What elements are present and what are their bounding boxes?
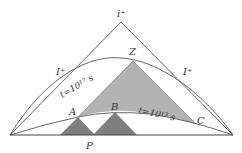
label-i-plus: i⁺ [117, 8, 125, 19]
label-z: Z [128, 46, 137, 57]
label-a: A [68, 106, 76, 117]
label-p: P [85, 140, 93, 151]
label-scri-right: I⁺ [182, 66, 192, 77]
label-c: C [197, 115, 205, 126]
past-light-cone-b [93, 112, 137, 135]
label-scri-left: I⁺ [55, 66, 65, 77]
label-b: B [110, 101, 118, 112]
spacetime-diagram: i⁺ I⁺ I⁺ t=10¹⁷ s t=10¹³ s Z A B C P [0, 0, 242, 153]
